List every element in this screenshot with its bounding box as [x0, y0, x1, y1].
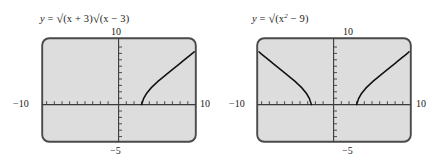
equation-right-arg2: − 9) — [288, 13, 309, 24]
xmin-label-left: −10 — [13, 98, 29, 109]
calculator-screen-right — [256, 37, 412, 143]
equation-right-arg1: (x — [275, 13, 284, 24]
radical-icon: √ — [268, 12, 275, 26]
graphing-calculator-figure: y = √(x + 3)√(x − 3) 10 −5 −10 10 — [0, 0, 433, 168]
equation-left-arg1: (x + 3) — [63, 13, 93, 24]
equation-left-equals: = — [48, 13, 54, 24]
ymax-label-left: 10 — [111, 26, 121, 37]
panel-right: y = √(x2 − 9) 10 −5 −10 10 — [216, 0, 433, 168]
equation-right-equals: = — [260, 13, 266, 24]
equation-right-lhs: y — [252, 13, 257, 24]
equation-left: y = √(x + 3)√(x − 3) — [40, 11, 129, 26]
equation-left-arg2: (x − 3) — [100, 13, 130, 24]
radical-icon: √ — [56, 12, 63, 26]
equation-right: y = √(x2 − 9) — [252, 11, 309, 26]
xmin-label-right: −10 — [229, 98, 245, 109]
ymin-label-left: −5 — [110, 145, 121, 156]
graph-svg-right — [256, 37, 412, 143]
equation-left-lhs: y — [40, 13, 45, 24]
ymax-label-right: 10 — [343, 26, 353, 37]
ymin-label-right: −5 — [342, 145, 353, 156]
xmax-label-left: 10 — [200, 98, 210, 109]
radical-icon: √ — [93, 12, 100, 26]
xmax-label-right: 10 — [416, 98, 426, 109]
graph-svg-left — [41, 37, 197, 143]
panel-left: y = √(x + 3)√(x − 3) 10 −5 −10 10 — [0, 0, 216, 168]
calculator-screen-left — [41, 37, 197, 143]
